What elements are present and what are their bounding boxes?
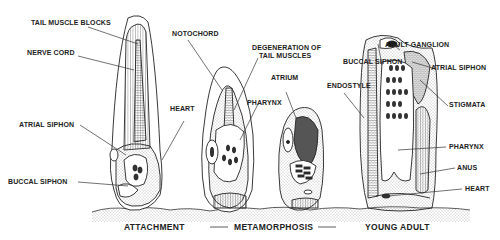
label-heart-larva: HEART bbox=[170, 105, 195, 113]
stage-metamorphosis: METAMORPHOSIS bbox=[234, 222, 313, 232]
label-degeneration-line2: TAIL MUSCLES bbox=[259, 52, 311, 60]
larva-attachment-illustration bbox=[110, 16, 162, 210]
label-atrial-siphon-larva: ATRIAL SIPHON bbox=[19, 121, 74, 129]
label-nerve-cord: NERVE CORD bbox=[27, 49, 75, 57]
label-heart-adult: HEART bbox=[465, 185, 490, 193]
label-anus: ANUS bbox=[457, 164, 477, 172]
label-atrial-siphon-adult: ATRIAL SIPHON bbox=[431, 64, 486, 72]
metamorphosis-stage-2-illustration bbox=[279, 107, 324, 210]
label-notochord: NOTOCHORD bbox=[172, 30, 219, 38]
stage-attachment: ATTACHMENT bbox=[124, 222, 185, 232]
label-buccal-siphon-larva: BUCCAL SIPHON bbox=[8, 178, 68, 186]
label-adult-ganglion: ADULT GANGLION bbox=[385, 41, 449, 49]
stage-young-adult: YOUNG ADULT bbox=[365, 222, 430, 232]
label-stigmata: STIGMATA bbox=[449, 101, 485, 109]
label-pharynx-metamorphosis: PHARYNX bbox=[247, 99, 282, 107]
tunicate-metamorphosis-diagram: TAIL MUSCLE BLOCKS NERVE CORD NOTOCHORD … bbox=[0, 0, 500, 240]
label-buccal-siphon-adult: BUCCAL SIPHON bbox=[343, 58, 403, 66]
label-endostyle: ENDOSTYLE bbox=[327, 82, 371, 90]
label-tail-muscle-blocks: TAIL MUSCLE BLOCKS bbox=[31, 19, 111, 27]
label-atrium: ATRIUM bbox=[271, 74, 298, 82]
label-pharynx-adult: PHARYNX bbox=[449, 143, 484, 151]
metamorphosis-stage-1-illustration bbox=[202, 67, 254, 212]
diagram-illustration bbox=[0, 0, 500, 240]
label-degeneration-line1: DEGENERATION OF bbox=[252, 44, 321, 52]
